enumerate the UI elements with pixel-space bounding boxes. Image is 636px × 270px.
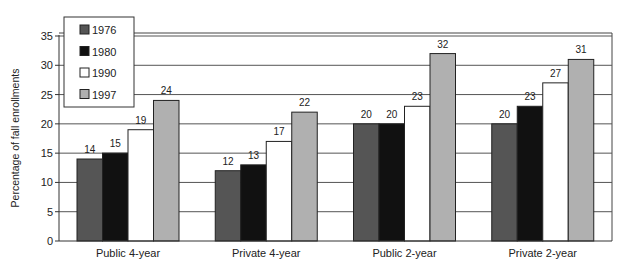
bar-1997-public-4-year <box>154 100 180 241</box>
data-label: 20 <box>386 109 398 120</box>
legend: 1976198019901997 <box>64 17 134 107</box>
data-label: 24 <box>161 85 173 96</box>
bars <box>77 54 594 241</box>
bar-1980-public-2-year <box>379 124 405 241</box>
data-label: 31 <box>575 44 587 55</box>
y-tick-label: 0 <box>47 235 53 247</box>
legend-swatch-1997 <box>80 90 89 99</box>
data-label: 27 <box>550 68 562 79</box>
y-tick-label: 10 <box>41 176 53 188</box>
x-category-label: Private 2-year <box>509 247 578 259</box>
y-axis-title: Percentage of fall enrollments <box>9 69 21 208</box>
bar-1980-public-4-year <box>103 153 129 241</box>
bar-1990-private-2-year <box>543 83 569 241</box>
bar-1997-public-2-year <box>430 54 456 241</box>
data-label: 23 <box>524 91 536 102</box>
bar-1976-public-4-year <box>77 159 103 241</box>
bar-1976-private-2-year <box>492 124 518 241</box>
legend-label-1997: 1997 <box>92 89 116 101</box>
data-label: 14 <box>84 144 96 155</box>
bar-1997-private-2-year <box>568 59 594 241</box>
x-category-label: Public 4-year <box>96 247 161 259</box>
data-label: 13 <box>248 150 260 161</box>
legend-swatch-1990 <box>80 68 89 77</box>
data-label: 23 <box>412 91 424 102</box>
y-tick-label: 35 <box>41 30 53 42</box>
legend-swatch-1976 <box>80 25 89 34</box>
bar-1990-public-2-year <box>405 106 431 241</box>
x-category-label: Private 4-year <box>232 247 301 259</box>
data-label: 17 <box>273 126 285 137</box>
bar-chart: 05101520253035Public 4-yearPrivate 4-yea… <box>0 0 636 270</box>
legend-label-1976: 1976 <box>92 24 116 36</box>
y-tick-label: 20 <box>41 118 53 130</box>
bar-1976-public-2-year <box>354 124 380 241</box>
legend-label-1990: 1990 <box>92 67 116 79</box>
y-tick-label: 30 <box>41 59 53 71</box>
legend-label-1980: 1980 <box>92 46 116 58</box>
y-tick-label: 15 <box>41 147 53 159</box>
data-label: 12 <box>222 156 234 167</box>
data-label: 20 <box>499 109 511 120</box>
data-label: 20 <box>361 109 373 120</box>
bar-1976-private-4-year <box>215 171 241 241</box>
legend-swatch-1980 <box>80 47 89 56</box>
data-label: 22 <box>299 97 311 108</box>
bar-1990-private-4-year <box>266 141 292 241</box>
bar-1990-public-4-year <box>128 130 154 241</box>
bar-1997-private-4-year <box>292 112 318 241</box>
bar-1980-private-4-year <box>241 165 267 241</box>
data-label: 15 <box>110 138 122 149</box>
bar-1980-private-2-year <box>517 106 543 241</box>
data-label: 19 <box>135 115 147 126</box>
y-tick-label: 25 <box>41 89 53 101</box>
x-category-label: Public 2-year <box>372 247 437 259</box>
data-label: 32 <box>437 39 449 50</box>
y-tick-label: 5 <box>47 206 53 218</box>
